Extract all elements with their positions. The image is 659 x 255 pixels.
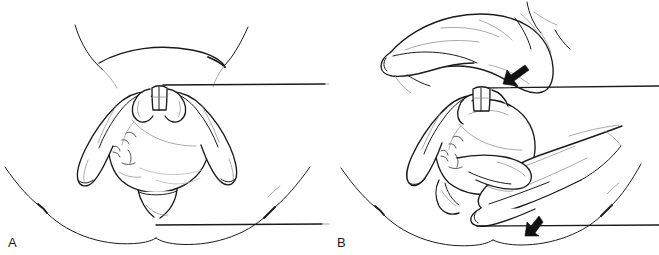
lower-reference-line [156,224,329,225]
figure-root: A [0,0,659,255]
panel-a-illustration [0,0,330,255]
panel-a: A [0,0,330,255]
clinician-thumbs [152,86,167,110]
upper-reference-line [477,86,659,88]
upper-reference-line [163,84,329,85]
suprapubic-pressure-hand [381,14,553,93]
panel-b: B [329,0,659,255]
maternal-pubic-arch [75,25,248,88]
panel-b-illustration [329,0,659,255]
panel-a-label: A [8,236,17,249]
lower-reference-line [477,225,659,226]
fetal-neck-and-shoulder [138,189,177,218]
panel-b-label: B [337,236,346,249]
